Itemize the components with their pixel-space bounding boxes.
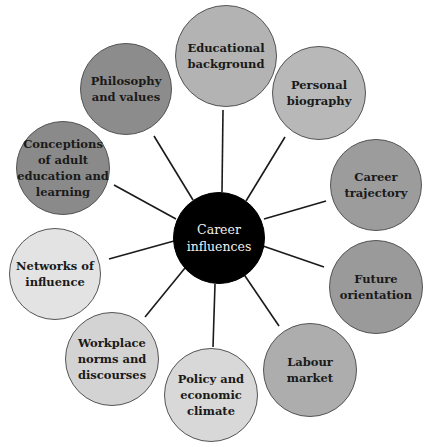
- connector-career-trajectory: [264, 201, 326, 219]
- connector-future-orientation: [263, 246, 324, 267]
- connector-workplace-norms-and-discourses: [145, 268, 185, 317]
- node-labour-market: Labour market: [263, 323, 357, 417]
- node-future-orientation: Future orientation: [329, 240, 423, 334]
- connector-philosophy-and-values: [154, 136, 193, 200]
- connector-networks-of-influence: [109, 241, 174, 259]
- connector-educational-background: [222, 110, 223, 192]
- node-networks-of-influence: Networks of influence: [9, 228, 101, 320]
- connector-policy-and-economic-climate: [213, 284, 215, 347]
- node-workplace-norms-and-discourses: Workplace norms and discourses: [65, 312, 159, 406]
- node-philosophy-and-values: Philosophy and values: [80, 43, 172, 135]
- connector-personal-biography: [246, 137, 285, 201]
- node-personal-biography: Personal biography: [272, 46, 366, 140]
- node-educational-background: Educational background: [175, 5, 277, 107]
- connector-labour-market: [243, 273, 279, 326]
- node-policy-and-economic-climate: Policy and economic climate: [164, 348, 258, 442]
- connector-conceptions-of-adult-education-and-learning: [114, 185, 176, 219]
- node-career-trajectory: Career trajectory: [330, 139, 422, 231]
- career-influences-diagram: Educational backgroundPersonal biography…: [0, 0, 432, 447]
- center-node-career-influences: Career influences: [173, 192, 265, 284]
- node-conceptions-of-adult-education-and-learning: Conceptions of adult education and learn…: [16, 121, 110, 215]
